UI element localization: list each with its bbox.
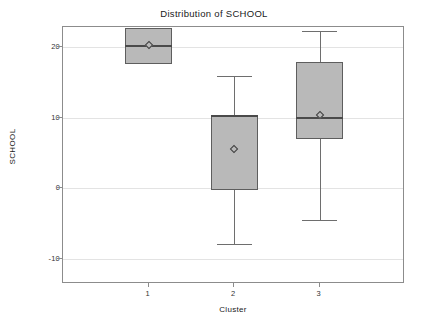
chart-title: Distribution of SCHOOL (0, 8, 428, 19)
x-tick-mark (233, 283, 234, 287)
y-tick-label: 10 (20, 112, 60, 121)
y-tick-mark (57, 117, 62, 118)
lower-whisker-cap (302, 220, 337, 221)
y-tick-mark (57, 187, 62, 188)
x-tick-label: 1 (128, 289, 168, 298)
plot-area (62, 26, 404, 283)
x-tick-label: 3 (299, 289, 339, 298)
x-axis-label: Cluster (62, 305, 404, 314)
upper-whisker-stem (320, 31, 321, 62)
y-tick-label: 0 (20, 183, 60, 192)
upper-whisker-cap (302, 31, 337, 32)
y-tick-label: -10 (20, 254, 60, 263)
x-tick-mark (319, 283, 320, 287)
y-axis-label: SCHOOL (8, 128, 17, 164)
lower-whisker-stem (320, 139, 321, 220)
y-tick-mark (57, 46, 62, 47)
x-tick-mark (148, 283, 149, 287)
box-iqr-rect (296, 62, 343, 138)
box-plot-group (63, 27, 405, 282)
boxplot-figure: Distribution of SCHOOL SCHOOL -1001020 1… (0, 0, 428, 325)
y-tick-mark (57, 258, 62, 259)
x-tick-label: 2 (213, 289, 253, 298)
y-tick-label: 20 (20, 41, 60, 50)
